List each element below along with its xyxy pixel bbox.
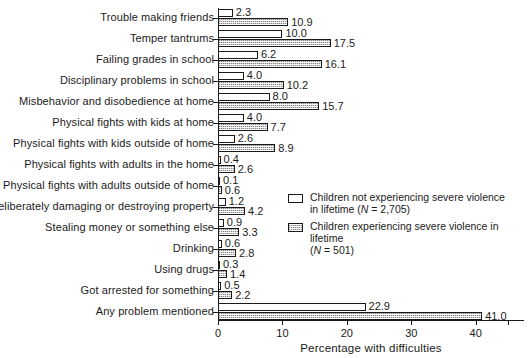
legend-n-symbol: N — [314, 244, 322, 256]
bar-series-a — [218, 240, 222, 248]
legend-line-1: Children not experiencing severe violenc… — [310, 191, 505, 203]
bar-value-label: 1.2 — [229, 196, 244, 207]
bar-series-b — [218, 270, 227, 278]
legend-line-2-suffix: = 2,705) — [368, 203, 410, 215]
chart-row: Physical fights with kids outside of hom… — [0, 134, 531, 155]
category-label: Got arrested for something — [81, 284, 214, 297]
legend-line-1: Children experiencing severe violence in… — [310, 220, 499, 244]
bar-series-a — [218, 30, 282, 38]
category-label: Physical fights with kids outside of hom… — [13, 137, 214, 150]
chart-row: Misbehavior and disobedience at home8.01… — [0, 92, 531, 113]
x-axis-tick — [347, 320, 348, 325]
bar-value-label: 0.9 — [227, 217, 242, 228]
bar-value-label: 2.3 — [236, 7, 251, 18]
x-axis-title: Percentage with difficulties — [218, 342, 524, 354]
bar-value-label: 2.6 — [238, 133, 253, 144]
bar-series-a — [218, 282, 221, 290]
x-axis-tick — [411, 320, 412, 325]
bar-series-b — [218, 60, 322, 68]
legend-swatch-stippled-bar — [288, 223, 303, 232]
x-axis-tick — [282, 320, 283, 325]
chart-row: Temper tantrums10.017.5 — [0, 29, 531, 50]
bar-value-label: 0.6 — [225, 238, 240, 249]
bar-series-b — [218, 81, 284, 89]
category-label: Trouble making friends — [100, 11, 214, 24]
bar-series-b — [218, 249, 236, 257]
bar-series-a — [218, 93, 270, 101]
category-label: Any problem mentioned — [96, 305, 214, 318]
legend-entry-not-experiencing: Children not experiencing severe violenc… — [288, 191, 526, 215]
bar-series-a — [218, 135, 235, 143]
bar-value-label: 7.7 — [271, 122, 286, 133]
chart-row: Got arrested for something0.52.2 — [0, 281, 531, 302]
legend-label-experiencing: Children experiencing severe violence in… — [310, 220, 526, 256]
bar-value-label: 4.0 — [247, 112, 262, 123]
legend-line-2-suffix: = 501) — [321, 244, 354, 256]
bar-value-label: 41.0 — [485, 311, 506, 322]
x-axis-tick-label: 40 — [456, 327, 496, 339]
bar-series-b — [218, 312, 482, 320]
bar-series-b — [218, 228, 239, 236]
x-axis-tick-label: 20 — [327, 327, 367, 339]
bar-series-b — [218, 207, 245, 215]
chart-legend: Children not experiencing severe violenc… — [288, 191, 526, 261]
chart-row: Physical fights with adults in the home0… — [0, 155, 531, 176]
category-label: Physical fights with adults outside of h… — [3, 179, 214, 192]
bar-series-a — [218, 9, 233, 17]
bar-series-a — [218, 198, 226, 206]
bar-series-a — [218, 51, 258, 59]
category-label: Physical fights with kids at home — [52, 116, 214, 129]
bar-series-b — [218, 165, 235, 173]
category-label: Deliberately damaging or destroying prop… — [0, 200, 214, 213]
bar-series-a — [218, 177, 220, 185]
bar-chart: Trouble making friends2.310.9Temper tant… — [0, 0, 531, 358]
x-axis-tick — [476, 320, 477, 325]
bar-series-a — [218, 72, 244, 80]
chart-row: Physical fights with kids at home4.07.7 — [0, 113, 531, 134]
bar-value-label: 16.1 — [325, 59, 346, 70]
chart-row: Trouble making friends2.310.9 — [0, 8, 531, 29]
legend-line-2-prefix: in lifetime ( — [310, 203, 361, 215]
bar-series-a — [218, 303, 366, 311]
bar-value-label: 10.2 — [287, 80, 308, 91]
bar-value-label: 4.2 — [248, 206, 263, 217]
bar-value-label: 22.9 — [369, 301, 390, 312]
category-label: Failing grades in school — [96, 53, 214, 66]
bar-series-a — [218, 219, 224, 227]
chart-row: Disciplinary problems in school4.010.2 — [0, 71, 531, 92]
bar-series-b — [218, 291, 232, 299]
category-label: Stealing money or something else — [45, 221, 214, 234]
bar-value-label: 8.0 — [273, 91, 288, 102]
bar-value-label: 6.2 — [261, 49, 276, 60]
x-axis-tick-minor — [508, 320, 509, 325]
x-axis-tick-label: 0 — [198, 327, 238, 339]
legend-label-not-experiencing: Children not experiencing severe violenc… — [310, 191, 526, 215]
category-label: Disciplinary problems in school — [60, 74, 214, 87]
bar-value-label: 2.8 — [239, 248, 254, 259]
category-label: Physical fights with adults in the home — [24, 158, 214, 171]
bar-series-b — [218, 39, 331, 47]
chart-row: Any problem mentioned22.941.0 — [0, 302, 531, 323]
bar-value-label: 0.4 — [224, 154, 239, 165]
chart-row: Failing grades in school6.216.1 — [0, 50, 531, 71]
bar-series-b — [218, 18, 288, 26]
bar-series-b — [218, 102, 319, 110]
bar-series-b — [218, 123, 268, 131]
bar-series-a — [218, 261, 220, 269]
legend-swatch-open-bar — [288, 194, 303, 203]
bar-series-a — [218, 156, 221, 164]
bar-value-label: 3.3 — [242, 227, 257, 238]
bar-value-label: 10.0 — [285, 28, 306, 39]
bar-series-b — [218, 144, 275, 152]
category-label: Using drugs — [154, 263, 214, 276]
bar-value-label: 2.2 — [235, 290, 250, 301]
x-axis-tick-label: 10 — [262, 327, 302, 339]
chart-row: Using drugs0.31.4 — [0, 260, 531, 281]
bar-value-label: 8.9 — [278, 143, 293, 154]
category-label: Misbehavior and disobedience at home — [19, 95, 214, 108]
category-label: Temper tantrums — [130, 32, 214, 45]
bar-value-label: 2.6 — [238, 164, 253, 175]
x-axis-tick — [218, 320, 219, 325]
bar-series-b — [218, 186, 222, 194]
category-label: Drinking — [173, 242, 214, 255]
